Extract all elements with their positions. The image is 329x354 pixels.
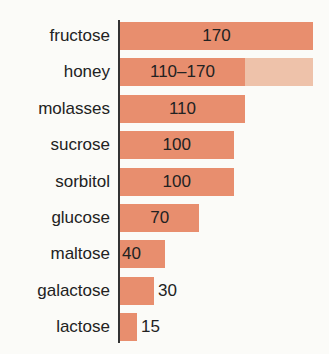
bar-row-glucose: glucose70 bbox=[0, 204, 329, 232]
bar-row-maltose: maltose40 bbox=[0, 240, 329, 268]
bar-row-lactose: lactose15 bbox=[0, 313, 329, 341]
category-label: maltose bbox=[50, 240, 110, 268]
bar-row-molasses: molasses110 bbox=[0, 95, 329, 123]
category-label: fructose bbox=[50, 22, 110, 50]
value-label: 100 bbox=[120, 131, 234, 159]
value-label: 170 bbox=[120, 22, 313, 50]
sweetness-bar-chart: fructose170honey110–170molasses110sucros… bbox=[0, 0, 329, 354]
bar-row-galactose: galactose30 bbox=[0, 277, 329, 305]
category-label: galactose bbox=[37, 277, 110, 305]
bar-row-sorbitol: sorbitol100 bbox=[0, 168, 329, 196]
category-label: honey bbox=[64, 58, 110, 86]
value-label: 30 bbox=[158, 277, 177, 305]
bar-range-extension bbox=[245, 58, 313, 86]
value-label: 110 bbox=[120, 95, 245, 123]
bar-row-honey: honey110–170 bbox=[0, 58, 329, 86]
bar-row-fructose: fructose170 bbox=[0, 22, 329, 50]
bar bbox=[120, 277, 154, 305]
value-label: 15 bbox=[141, 313, 160, 341]
category-label: sucrose bbox=[50, 131, 110, 159]
bar-row-sucrose: sucrose100 bbox=[0, 131, 329, 159]
value-label: 110–170 bbox=[120, 58, 245, 86]
bar bbox=[120, 313, 137, 341]
category-label: lactose bbox=[56, 313, 110, 341]
category-label: glucose bbox=[51, 204, 110, 232]
value-label: 100 bbox=[120, 168, 234, 196]
value-label: 70 bbox=[120, 204, 199, 232]
category-label: molasses bbox=[38, 95, 110, 123]
category-label: sorbitol bbox=[55, 168, 110, 196]
value-label: 40 bbox=[122, 240, 141, 268]
